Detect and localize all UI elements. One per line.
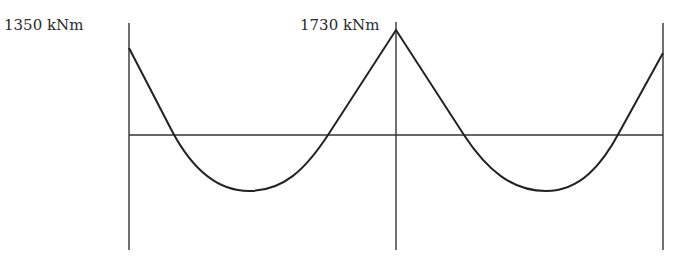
moment-diagram	[0, 0, 696, 262]
